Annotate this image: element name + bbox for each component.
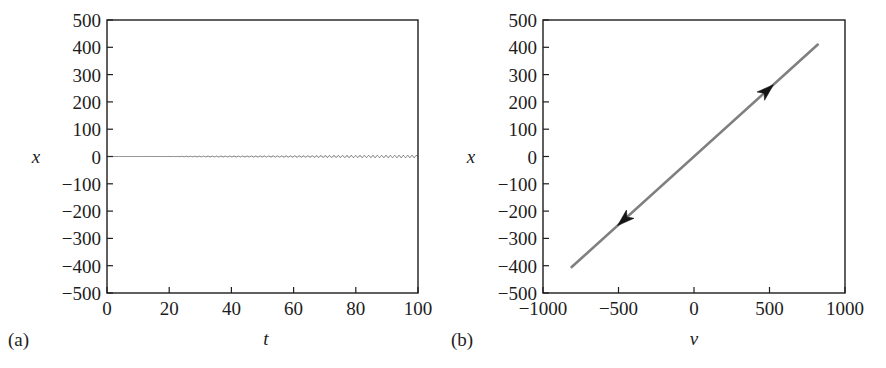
panel-a-plot: 500 400 300 200 100 0 −100 −200 −300 −40…	[0, 0, 443, 368]
y-tick-label: 100	[509, 119, 538, 140]
x-tick-label: 0	[689, 298, 699, 319]
y-tick-label: −300	[62, 228, 101, 249]
panel-a-x-ticks	[107, 287, 418, 293]
panel-a-tag: (a)	[8, 329, 29, 351]
y-tick-label: −100	[498, 174, 537, 195]
panel-b-y-tick-labels: 500 400 300 200 100 0 −100 −200 −300 −40…	[498, 10, 537, 304]
panel-a-y-tick-labels: 500 400 300 200 100 0 −100 −200 −300 −40…	[62, 10, 101, 304]
panel-b-x-tick-labels: −1000 −500 0 500 1000	[519, 298, 864, 319]
y-tick-label: 500	[73, 10, 102, 31]
x-tick-label: 80	[346, 298, 365, 319]
panel-b-y-axis-title: x	[466, 146, 476, 167]
panel-b-x-axis-title: ν	[690, 328, 699, 349]
panel-b-x-ticks	[543, 287, 845, 293]
x-tick-label: −500	[599, 298, 638, 319]
y-tick-label: 0	[528, 147, 538, 168]
y-tick-label: −400	[498, 256, 537, 277]
panel-a: 500 400 300 200 100 0 −100 −200 −300 −40…	[0, 0, 443, 368]
y-tick-label: 200	[73, 92, 102, 113]
y-tick-label: 400	[73, 37, 102, 58]
x-tick-label: 60	[284, 298, 303, 319]
panel-a-x-axis-title: t	[263, 328, 269, 349]
x-tick-label: 1000	[826, 298, 864, 319]
y-tick-label: 400	[509, 37, 538, 58]
y-tick-label: 200	[509, 92, 538, 113]
x-tick-label: −1000	[519, 298, 568, 319]
panel-b-plot: 500 400 300 200 100 0 −100 −200 −300 −40…	[443, 0, 886, 368]
panel-b: 500 400 300 200 100 0 −100 −200 −300 −40…	[443, 0, 886, 368]
x-tick-label: 0	[102, 298, 112, 319]
panel-b-data-curve	[572, 45, 818, 267]
panel-a-data-curve	[107, 155, 418, 157]
y-tick-label: 300	[73, 65, 102, 86]
y-tick-label: −300	[498, 228, 537, 249]
y-tick-label: 100	[73, 119, 102, 140]
y-tick-label: −500	[62, 283, 101, 304]
panel-a-x-tick-labels: 0 20 40 60 80 100	[102, 298, 432, 319]
y-tick-label: −400	[62, 256, 101, 277]
panel-a-y-axis-title: x	[31, 146, 41, 167]
panel-b-tag: (b)	[451, 329, 473, 351]
x-tick-label: 20	[160, 298, 179, 319]
panel-b-y-ticks	[543, 20, 549, 293]
y-tick-label: −100	[62, 174, 101, 195]
x-tick-label: 500	[755, 298, 784, 319]
x-tick-label: 40	[222, 298, 241, 319]
figure-container: 500 400 300 200 100 0 −100 −200 −300 −40…	[0, 0, 886, 368]
y-tick-label: 0	[92, 147, 102, 168]
y-tick-label: 300	[509, 65, 538, 86]
y-tick-label: 500	[509, 10, 538, 31]
x-tick-label: 100	[404, 298, 433, 319]
y-tick-label: −200	[498, 201, 537, 222]
y-tick-label: −200	[62, 201, 101, 222]
